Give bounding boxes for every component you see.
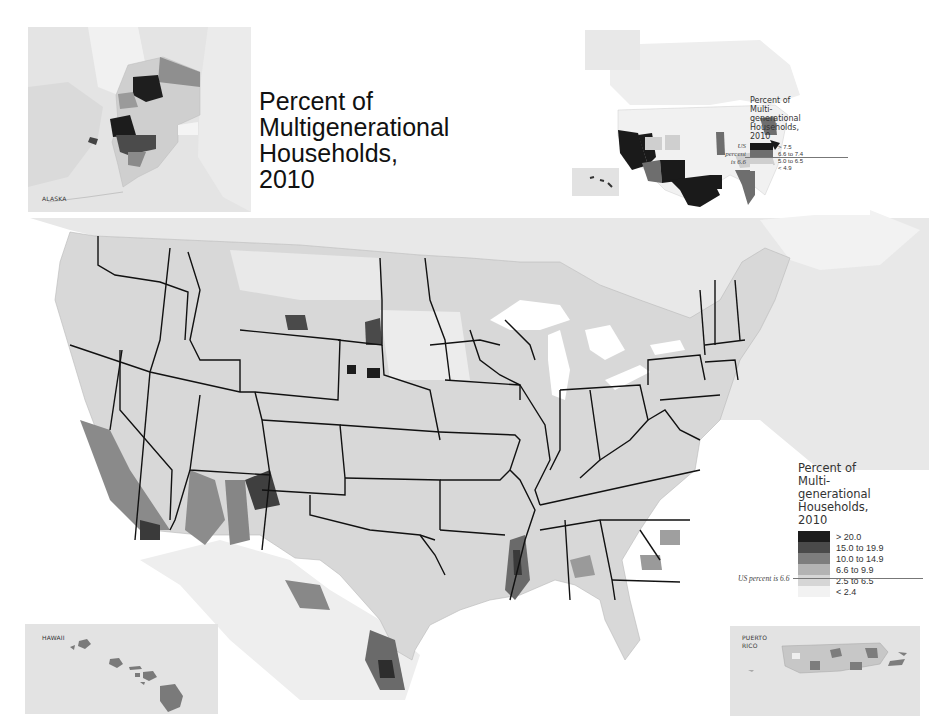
state-utah bbox=[645, 137, 662, 150]
county-legend-title: Percent of Multi- generational Household… bbox=[798, 462, 871, 527]
legend-swatch bbox=[798, 586, 830, 597]
legend-label: > 20.0 bbox=[836, 532, 861, 542]
hawaii-inset: HAWAII bbox=[25, 624, 218, 714]
state-louisiana bbox=[710, 175, 722, 189]
alaska-mini-inset bbox=[585, 30, 640, 70]
region-low-nebraska bbox=[380, 310, 470, 380]
kauai-island bbox=[78, 639, 91, 649]
legend-label: 15.0 to 19.9 bbox=[836, 543, 884, 553]
state-legend-row: < 4.9 bbox=[750, 164, 803, 171]
county-legend-title-line-5: 2010 bbox=[798, 514, 871, 527]
pr-municipio-high bbox=[850, 662, 862, 670]
legend-label: > 7.5 bbox=[778, 144, 792, 150]
region-sd-dark-2 bbox=[367, 368, 380, 378]
state-legend-row: 6.6 to 7.4 bbox=[750, 150, 803, 157]
us-note-line-1: US bbox=[708, 142, 746, 150]
oahu-island bbox=[109, 658, 123, 668]
county-legend-row: > 20.0 bbox=[798, 531, 884, 542]
legend-swatch bbox=[750, 143, 773, 150]
us-note-line-2: percent bbox=[708, 150, 746, 158]
pr-municipio-low bbox=[792, 653, 800, 659]
region-montana-reservation bbox=[285, 315, 308, 330]
state-legend-title-line-5: 2010 bbox=[750, 132, 801, 141]
legend-swatch bbox=[750, 150, 773, 157]
state-legend-title-line-4: Households, bbox=[750, 123, 801, 132]
county-legend-row: 10.0 to 14.9 bbox=[798, 553, 884, 564]
vieques-island bbox=[888, 659, 905, 666]
kahoolawe-island bbox=[140, 682, 145, 685]
molokai-island bbox=[129, 666, 142, 670]
legend-swatch bbox=[798, 531, 830, 542]
state-colorado bbox=[665, 135, 680, 150]
legend-swatch bbox=[798, 575, 830, 586]
state-legend-title-line-1: Percent of bbox=[750, 96, 801, 105]
pr-label-line-2: RICO bbox=[742, 642, 767, 650]
legend-label: < 4.9 bbox=[778, 165, 792, 171]
state-legend-title-line-3: generational bbox=[750, 114, 801, 123]
county-legend-us-note: US percent is 6.6 bbox=[738, 574, 789, 583]
state-legend-row: 5.0 to 6.5 bbox=[750, 157, 803, 164]
alaska-map-svg bbox=[28, 27, 251, 212]
alaska-inset: ALASKA bbox=[28, 27, 251, 212]
state-legend-us-line bbox=[745, 157, 848, 158]
alaska-label: ALASKA bbox=[42, 195, 67, 202]
county-legend-us-line bbox=[793, 578, 923, 579]
legend-swatch bbox=[798, 564, 830, 575]
county-legend-row: 2.5 to 6.5 bbox=[798, 575, 884, 586]
legend-label: 6.6 to 7.4 bbox=[778, 151, 803, 157]
puerto-rico-label: PUERTO RICO bbox=[742, 634, 767, 650]
county-legend-row: 15.0 to 19.9 bbox=[798, 542, 884, 553]
state-level-map: Percent of Multi- generational Household… bbox=[570, 25, 870, 215]
state-map-svg bbox=[570, 25, 870, 215]
region-sd-reservation bbox=[365, 318, 382, 345]
region-carolina-mid bbox=[660, 530, 680, 545]
culebra-island bbox=[898, 652, 907, 656]
legend-label: < 2.4 bbox=[836, 587, 856, 597]
county-legend-classes: > 20.0 15.0 to 19.9 10.0 to 14.9 6.6 to … bbox=[798, 531, 884, 597]
state-legend-title-line-2: Multi- bbox=[750, 105, 801, 114]
title-line-1: Percent of bbox=[259, 88, 449, 114]
puerto-rico-inset: PUERTO RICO bbox=[730, 626, 920, 716]
state-legend-row: > 7.5 bbox=[750, 143, 803, 150]
title-line-3: Households, bbox=[259, 140, 449, 166]
county-legend-row: < 2.4 bbox=[798, 586, 884, 597]
us-note-line-3: is 6.6 bbox=[708, 158, 746, 166]
county-legend-row: 6.6 to 9.9 bbox=[798, 564, 884, 575]
legend-swatch bbox=[798, 542, 830, 553]
pr-municipio-high bbox=[810, 661, 820, 670]
pr-label-line-1: PUERTO bbox=[742, 634, 767, 642]
lanai-island bbox=[135, 673, 140, 677]
title-line-2: Multigenerational bbox=[259, 114, 449, 140]
legend-swatch bbox=[798, 553, 830, 564]
region-sd-dark bbox=[347, 365, 356, 374]
state-legend-us-note: US percent is 6.6 bbox=[708, 142, 746, 166]
hawaii-label: HAWAII bbox=[42, 634, 65, 641]
legend-label: 2.5 to 6.5 bbox=[836, 576, 874, 586]
state-legend-title: Percent of Multi- generational Household… bbox=[750, 96, 801, 141]
map-title: Percent of Multigenerational Households,… bbox=[259, 88, 449, 192]
title-line-4: 2010 bbox=[259, 166, 449, 192]
big-island-hawaii bbox=[160, 684, 183, 712]
legend-label: 6.6 to 9.9 bbox=[836, 565, 874, 575]
legend-swatch bbox=[750, 157, 773, 164]
legend-label: 10.0 to 14.9 bbox=[836, 554, 884, 564]
legend-swatch bbox=[750, 164, 773, 171]
legend-label: 5.0 to 6.5 bbox=[778, 158, 803, 164]
maui-island bbox=[143, 671, 157, 681]
niihau-island bbox=[70, 645, 75, 650]
hawaii-mini-inset bbox=[572, 168, 619, 196]
mona-island bbox=[748, 670, 754, 672]
